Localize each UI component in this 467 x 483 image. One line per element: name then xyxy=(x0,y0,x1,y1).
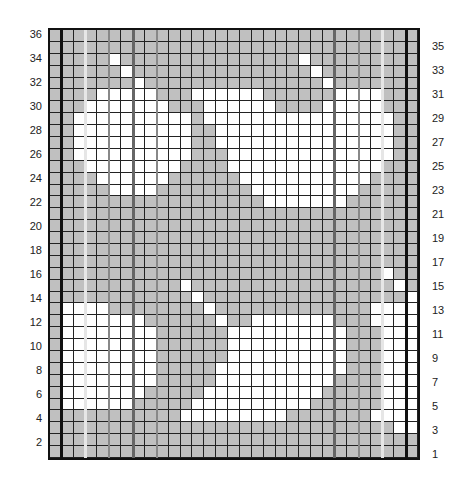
chart-cell xyxy=(192,363,204,375)
chart-cell xyxy=(62,375,74,387)
chart-cell xyxy=(359,315,371,327)
chart-cell xyxy=(252,54,264,66)
row-label: 23 xyxy=(432,184,444,196)
chart-cell xyxy=(264,446,276,458)
chart-cell xyxy=(359,387,371,399)
chart-cell xyxy=(50,137,62,149)
chart-cell xyxy=(50,185,62,197)
chart-cell xyxy=(181,232,193,244)
chart-cell xyxy=(97,137,109,149)
chart-cell xyxy=(109,280,121,292)
chart-cell xyxy=(204,327,216,339)
chart-cell xyxy=(371,387,383,399)
chart-cell xyxy=(371,375,383,387)
row-label: 32 xyxy=(30,76,42,88)
chart-cell xyxy=(133,446,145,458)
chart-cell xyxy=(252,220,264,232)
chart-cell xyxy=(74,434,86,446)
chart-cell xyxy=(287,89,299,101)
chart-cell xyxy=(145,30,157,42)
chart-cell xyxy=(394,173,406,185)
chart-cell xyxy=(86,375,98,387)
chart-cell xyxy=(192,89,204,101)
chart-cell xyxy=(133,54,145,66)
chart-cell xyxy=(264,185,276,197)
chart-cell xyxy=(299,185,311,197)
chart-cell xyxy=(240,315,252,327)
chart-cell xyxy=(169,113,181,125)
chart-cell xyxy=(299,434,311,446)
chart-cell xyxy=(311,363,323,375)
chart-cell xyxy=(97,315,109,327)
chart-cell xyxy=(109,303,121,315)
chart-cell xyxy=(394,327,406,339)
chart-cell xyxy=(311,446,323,458)
chart-cell xyxy=(228,327,240,339)
chart-cell xyxy=(169,280,181,292)
chart-cell xyxy=(323,113,335,125)
chart-cell xyxy=(311,339,323,351)
chart-cell xyxy=(109,410,121,422)
chart-cell xyxy=(252,327,264,339)
chart-cell xyxy=(121,196,133,208)
row-label: 35 xyxy=(432,40,444,52)
chart-cell xyxy=(204,185,216,197)
chart-cell xyxy=(86,149,98,161)
chart-cell xyxy=(252,315,264,327)
chart-cell xyxy=(371,256,383,268)
chart-cell xyxy=(216,161,228,173)
chart-cell xyxy=(133,113,145,125)
chart-cell xyxy=(406,101,418,113)
chart-cell xyxy=(371,434,383,446)
chart-cell xyxy=(240,101,252,113)
chart-cell xyxy=(311,256,323,268)
chart-cell xyxy=(50,399,62,411)
chart-cell xyxy=(97,375,109,387)
chart-cell xyxy=(228,42,240,54)
chart-cell xyxy=(169,268,181,280)
chart-cell xyxy=(74,422,86,434)
chart-cell xyxy=(335,42,347,54)
chart-cell xyxy=(252,280,264,292)
chart-cell xyxy=(181,280,193,292)
chart-cell xyxy=(252,30,264,42)
chart-cell xyxy=(347,244,359,256)
chart-cell xyxy=(204,196,216,208)
chart-cell xyxy=(359,220,371,232)
chart-cell xyxy=(394,161,406,173)
chart-cell xyxy=(382,327,394,339)
chart-cell xyxy=(204,89,216,101)
chart-cell xyxy=(157,125,169,137)
chart-cell xyxy=(192,399,204,411)
chart-cell xyxy=(323,196,335,208)
chart-cell xyxy=(109,220,121,232)
chart-cell xyxy=(97,280,109,292)
chart-cell xyxy=(264,351,276,363)
chart-cell xyxy=(204,149,216,161)
row-label: 21 xyxy=(432,208,444,220)
chart-cell xyxy=(50,363,62,375)
chart-cell xyxy=(323,137,335,149)
chart-cell xyxy=(74,303,86,315)
chart-cell xyxy=(335,422,347,434)
chart-cell xyxy=(169,185,181,197)
chart-cell xyxy=(192,42,204,54)
chart-cell xyxy=(394,42,406,54)
chart-cell xyxy=(216,89,228,101)
chart-cell xyxy=(323,363,335,375)
chart-cell xyxy=(264,196,276,208)
chart-cell xyxy=(335,256,347,268)
chart-cell xyxy=(62,54,74,66)
chart-cell xyxy=(359,185,371,197)
chart-cell xyxy=(74,185,86,197)
chart-cell xyxy=(347,256,359,268)
chart-cell xyxy=(287,66,299,78)
chart-cell xyxy=(359,149,371,161)
chart-cell xyxy=(347,220,359,232)
chart-cell xyxy=(347,375,359,387)
chart-cell xyxy=(181,54,193,66)
chart-cell xyxy=(406,256,418,268)
chart-cell xyxy=(311,268,323,280)
chart-cell xyxy=(216,66,228,78)
chart-cell xyxy=(371,42,383,54)
